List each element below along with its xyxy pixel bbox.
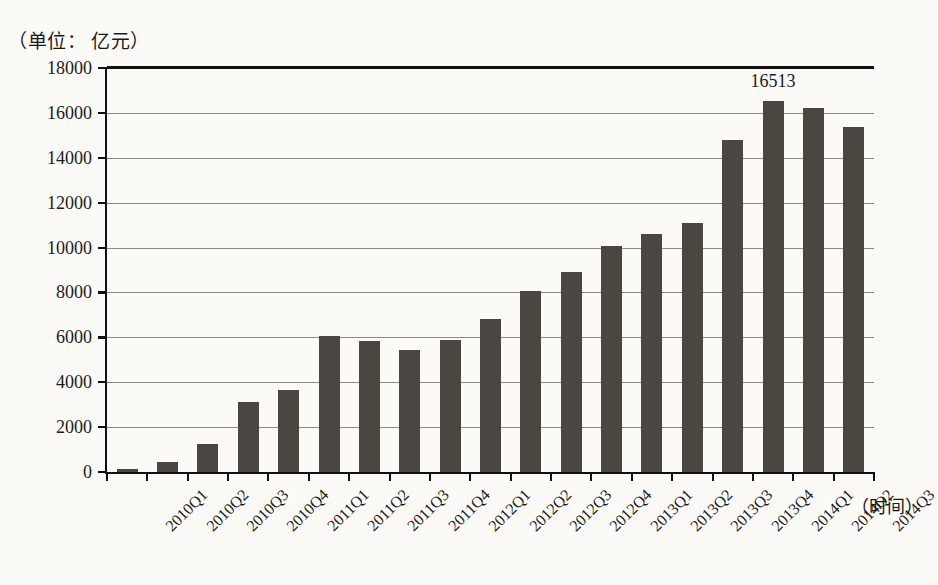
bar (722, 140, 743, 472)
x-axis-tick-label: 2010Q1 (162, 486, 211, 535)
x-axis-tick-label: 2012Q3 (566, 486, 615, 535)
bar (803, 108, 824, 472)
x-axis-tick-label: 2012Q4 (606, 486, 655, 535)
x-axis-tick-label: 2011Q4 (445, 486, 494, 535)
y-axis-tick (98, 157, 107, 159)
y-axis-tick (98, 336, 107, 338)
y-axis-tick (98, 67, 107, 69)
bar (399, 350, 420, 472)
y-axis-labels: 0200040006000800010000120001400016000180… (0, 0, 92, 585)
x-axis-tick-label: 2010Q3 (243, 486, 292, 535)
y-axis-tick-label: 18000 (47, 59, 92, 77)
y-axis-tick-label: 10000 (47, 239, 92, 257)
x-axis-tick-label: 2012Q1 (485, 486, 534, 535)
plot-frame-top (107, 66, 874, 69)
bar (278, 390, 299, 472)
x-axis-tick-label: 2013Q1 (647, 486, 696, 535)
x-axis-tick-label: 2010Q4 (283, 486, 332, 535)
x-axis-tick-label: 2014Q1 (808, 486, 857, 535)
bar (480, 319, 501, 472)
bar (682, 223, 703, 472)
bar (319, 336, 340, 472)
y-axis-tick-label: 8000 (56, 283, 92, 301)
x-axis-tick-label: 2012Q2 (526, 486, 575, 535)
bar (238, 402, 259, 472)
y-axis-tick-label: 12000 (47, 194, 92, 212)
x-axis-tick-label: 2011Q1 (324, 486, 373, 535)
y-axis-tick (98, 112, 107, 114)
y-axis-tick (98, 291, 107, 293)
y-axis-tick (98, 202, 107, 204)
x-axis-tick-label: 2011Q3 (404, 486, 453, 535)
gridline (107, 203, 874, 204)
y-axis-tick-label: 16000 (47, 104, 92, 122)
y-axis-tick (98, 426, 107, 428)
y-axis-tick-label: 14000 (47, 149, 92, 167)
gridline (107, 248, 874, 249)
plot-area: 16513 (105, 68, 874, 474)
x-axis-tick-label: 2011Q2 (364, 486, 413, 535)
y-axis-tick-label: 4000 (56, 373, 92, 391)
x-axis-title: （时间） (851, 492, 923, 518)
x-axis-tick-label: 2013Q2 (687, 486, 736, 535)
bar (197, 444, 218, 473)
gridline (107, 113, 874, 114)
bar (157, 462, 178, 472)
y-axis-tick-label: 0 (83, 463, 92, 481)
bar-value-label: 16513 (751, 71, 796, 92)
y-axis-tick-label: 6000 (56, 328, 92, 346)
x-axis-tick-label: 2013Q4 (768, 486, 817, 535)
bar (440, 340, 461, 472)
bar (601, 246, 622, 472)
bar (561, 272, 582, 472)
gridline (107, 158, 874, 159)
bar (763, 101, 784, 472)
y-axis-tick (98, 247, 107, 249)
y-axis-tick (98, 381, 107, 383)
bar (641, 234, 662, 472)
gridline (107, 292, 874, 293)
bar (843, 127, 864, 472)
x-axis-tick-label: 2013Q3 (727, 486, 776, 535)
x-axis-tick (873, 472, 875, 481)
bar (359, 341, 380, 472)
bar (520, 291, 541, 472)
x-axis-labels: 2010Q12010Q22010Q32010Q42011Q12011Q22011… (105, 472, 872, 585)
x-axis-tick-label: 2010Q2 (203, 486, 252, 535)
y-axis-tick-label: 2000 (56, 418, 92, 436)
